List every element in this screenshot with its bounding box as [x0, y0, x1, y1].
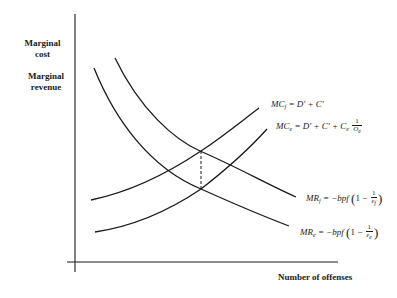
label-rhs: = −bpf: [321, 193, 349, 203]
label-main: MR: [300, 227, 313, 237]
chart-canvas: [0, 0, 397, 298]
label-rhs: = D' + C': [286, 99, 324, 109]
one-minus: 1 −: [355, 193, 369, 203]
label-rhs: = −bpf: [316, 227, 344, 237]
frac-den: Oe: [352, 126, 362, 135]
fraction: 1 Oe: [352, 118, 362, 135]
label-main: MC: [276, 121, 290, 131]
label-mr-f: MRf = −bpf (1 − 1 εf ): [306, 190, 382, 207]
label-sub: e: [358, 128, 361, 134]
frac-den: εf: [371, 198, 377, 207]
label-main: MR: [306, 193, 319, 203]
paren-close: ): [374, 225, 378, 240]
frac-den: εe: [366, 232, 373, 241]
label-rhs: = D' + C' + C: [292, 121, 346, 131]
label-sub: f: [374, 200, 376, 206]
label-sub: e: [346, 126, 349, 132]
label-sub: e: [369, 234, 372, 240]
paren-close: ): [378, 191, 382, 206]
fraction: 1 εe: [366, 224, 373, 241]
mr-f-curve: [115, 58, 296, 197]
label-mc-e: MCe = D' + C' + Ce 1 Oe: [276, 118, 363, 135]
label-mr-e: MRe = −bpf (1 − 1 εe ): [300, 224, 378, 241]
fraction: 1 εf: [371, 190, 377, 207]
mc-f-curve: [91, 108, 259, 200]
one-minus: 1 −: [350, 227, 364, 237]
x-axis-label: Number of offenses: [278, 272, 352, 282]
label-mc-f: MCf = D' + C': [271, 99, 324, 112]
label-main: MC: [271, 99, 285, 109]
mc-e-curve: [95, 129, 267, 232]
